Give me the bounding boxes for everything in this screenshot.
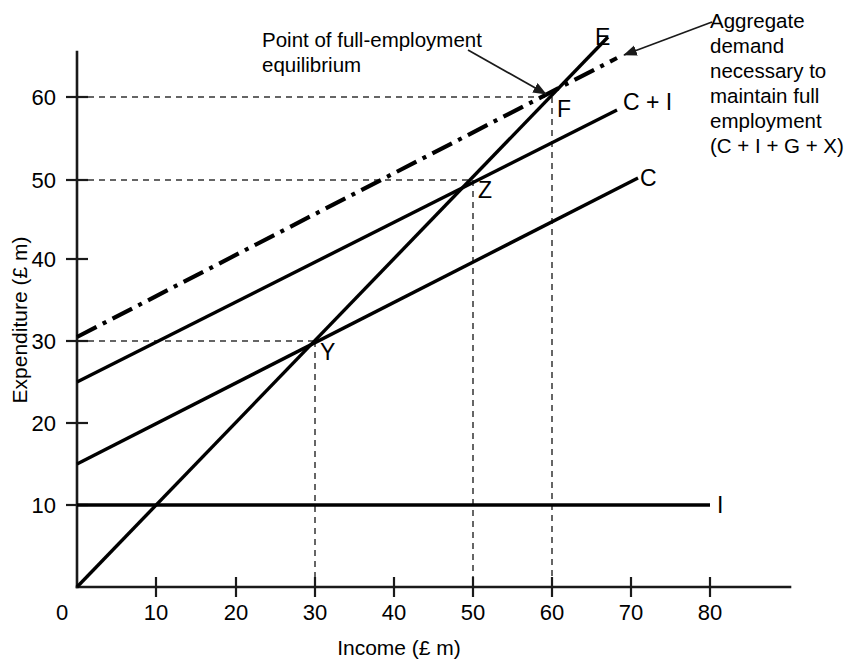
x-axis-title: Income (£ m) — [337, 636, 461, 659]
curve-consumption-c — [77, 178, 638, 464]
x-axis-tick-labels: 0 10 20 30 40 50 60 70 80 — [56, 600, 722, 625]
x-tick-label-40: 40 — [382, 600, 406, 625]
axes — [77, 52, 790, 587]
curve-labels: E C + I C I — [595, 24, 723, 518]
y-tick-label-50: 50 — [32, 168, 56, 193]
curve-label-c-plus-i: C + I — [623, 89, 672, 115]
point-label-z: Z — [478, 177, 492, 203]
x-tick-label-70: 70 — [619, 600, 643, 625]
point-label-f: F — [557, 96, 571, 122]
curve-label-e: E — [595, 24, 610, 50]
x-tick-label-10: 10 — [144, 600, 168, 625]
y-axis-title: Expenditure (£ m) — [8, 237, 31, 404]
curve-label-i: I — [717, 492, 723, 518]
leader-line-aggregate-demand — [624, 22, 712, 55]
point-label-y: Y — [320, 339, 335, 365]
annotation-aggregate-demand: Aggregate demand necessary to maintain f… — [710, 8, 854, 158]
x-tick-label-0: 0 — [56, 600, 68, 625]
x-tick-label-30: 30 — [303, 600, 327, 625]
x-tick-label-50: 50 — [461, 600, 485, 625]
x-tick-label-60: 60 — [540, 600, 564, 625]
y-tick-label-20: 20 — [32, 411, 56, 436]
x-tick-label-80: 80 — [698, 600, 722, 625]
economics-chart-figure: 60 50 40 30 20 10 0 10 20 30 40 50 60 70… — [0, 0, 854, 671]
curve-consumption-plus-investment — [77, 110, 617, 382]
curve-aggregate-demand — [77, 58, 617, 337]
annotation-full-employment-equilibrium: Point of full-employment equilibrium — [262, 27, 532, 77]
y-tick-label-10: 10 — [32, 493, 56, 518]
y-tick-label-60: 60 — [32, 85, 56, 110]
y-axis-tick-labels: 60 50 40 30 20 10 — [32, 85, 56, 518]
curve-label-c: C — [640, 165, 657, 191]
data-curves — [77, 37, 710, 587]
y-tick-label-40: 40 — [32, 247, 56, 272]
x-tick-label-20: 20 — [224, 600, 248, 625]
y-tick-label-30: 30 — [32, 329, 56, 354]
